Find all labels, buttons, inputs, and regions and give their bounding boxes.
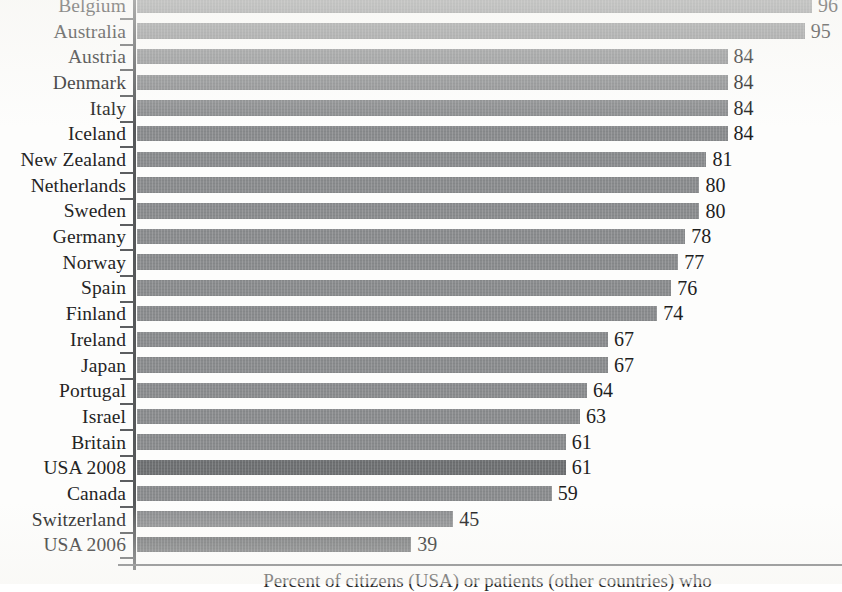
bar-row: USA 200861 (0, 457, 842, 483)
bar-value-label: 67 (614, 329, 634, 350)
bar (137, 460, 566, 475)
bar (137, 254, 678, 269)
bar (137, 511, 453, 526)
bar-row: Finland74 (0, 303, 842, 329)
bar-value-label: 81 (712, 149, 732, 170)
bar-value-label: 45 (459, 509, 479, 530)
category-label: New Zealand (0, 150, 126, 170)
bar-row: Austria84 (0, 46, 842, 72)
axis-tick (120, 172, 134, 174)
category-label: Canada (0, 484, 126, 504)
bar (137, 280, 671, 295)
bar-value-label: 59 (558, 483, 578, 504)
axis-tick (120, 249, 134, 251)
category-label: Ireland (0, 330, 126, 350)
category-label: Israel (0, 407, 126, 427)
category-label: Britain (0, 433, 126, 453)
bar-value-label: 80 (705, 201, 725, 222)
bar (137, 0, 812, 13)
bar-row: Germany78 (0, 226, 842, 252)
bar (137, 152, 706, 167)
axis-tick (120, 506, 134, 508)
x-axis-baseline (118, 564, 842, 566)
bar-row: Iceland84 (0, 123, 842, 149)
axis-tick (120, 224, 134, 226)
bar (137, 357, 608, 372)
category-label: Denmark (0, 73, 126, 93)
category-label: Sweden (0, 201, 126, 221)
y-axis-line (133, 0, 136, 570)
axis-tick (120, 301, 134, 303)
bar (137, 100, 728, 115)
bar (137, 229, 685, 244)
bar (137, 537, 411, 552)
bar-row: Britain61 (0, 431, 842, 457)
bar-value-label: 84 (734, 46, 754, 67)
axis-tick (120, 44, 134, 46)
bar-value-label: 84 (734, 98, 754, 119)
bar (137, 75, 728, 90)
bar-value-label: 63 (586, 406, 606, 427)
bar (137, 203, 699, 218)
bar (137, 383, 587, 398)
bar-value-label: 61 (572, 457, 592, 478)
category-label: Germany (0, 227, 126, 247)
category-label: USA 2008 (0, 458, 126, 478)
axis-tick (120, 121, 134, 123)
bar-row: Japan67 (0, 354, 842, 380)
category-label: Belgium (0, 0, 126, 16)
category-label: Norway (0, 253, 126, 273)
x-axis-label: Percent of citizens (USA) or patients (o… (133, 570, 842, 592)
axis-tick (120, 532, 134, 534)
axis-tick (120, 18, 134, 20)
bar-row: Netherlands80 (0, 174, 842, 200)
bar (137, 434, 566, 449)
bar-row: Norway77 (0, 251, 842, 277)
axis-tick (120, 378, 134, 380)
bar-value-label: 39 (417, 534, 437, 555)
axis-tick (120, 480, 134, 482)
category-label: Netherlands (0, 176, 126, 196)
bar-row: Switzerland45 (0, 508, 842, 534)
bar (137, 126, 728, 141)
bar-value-label: 95 (811, 21, 831, 42)
bar-row: Portugal64 (0, 380, 842, 406)
bar (137, 486, 552, 501)
category-label: Finland (0, 304, 126, 324)
bar-value-label: 74 (663, 303, 683, 324)
bar-value-label: 64 (593, 380, 613, 401)
category-label: Japan (0, 356, 126, 376)
bar-row: Italy84 (0, 97, 842, 123)
bar-value-label: 80 (705, 175, 725, 196)
category-label: Iceland (0, 124, 126, 144)
axis-tick (120, 403, 134, 405)
axis-tick (120, 429, 134, 431)
bar-row: Israel63 (0, 405, 842, 431)
bar (137, 177, 699, 192)
axis-tick (120, 69, 134, 71)
bar-row: Denmark84 (0, 72, 842, 98)
bar (137, 23, 805, 38)
category-label: Austria (0, 47, 126, 67)
axis-tick (120, 326, 134, 328)
bar (137, 332, 608, 347)
category-label: Australia (0, 22, 126, 42)
bar-value-label: 77 (684, 252, 704, 273)
bar-value-label: 76 (677, 278, 697, 299)
bar-row: Australia95 (0, 20, 842, 46)
bar-value-label: 84 (734, 123, 754, 144)
bar-row: Spain76 (0, 277, 842, 303)
bar-row: New Zealand81 (0, 149, 842, 175)
axis-tick (120, 455, 134, 457)
bar-row: Belgium96 (0, 0, 842, 20)
category-label: Switzerland (0, 510, 126, 530)
axis-tick (120, 198, 134, 200)
bar-value-label: 67 (614, 355, 634, 376)
axis-tick (120, 275, 134, 277)
bar-value-label: 84 (734, 72, 754, 93)
category-label: USA 2006 (0, 535, 126, 555)
category-label: Spain (0, 278, 126, 298)
bar (137, 306, 657, 321)
category-label: Italy (0, 99, 126, 119)
